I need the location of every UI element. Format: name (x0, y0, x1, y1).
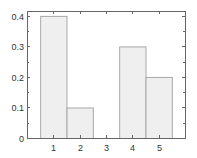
x-tick-label: 4 (130, 143, 135, 153)
bar-5 (146, 77, 172, 138)
bar-chart: 00.10.20.30.4 12345 (0, 0, 197, 158)
bar-series (41, 16, 173, 138)
bar-2 (67, 108, 93, 139)
x-tick-label: 1 (51, 143, 56, 153)
y-tick-label: 0.4 (11, 12, 24, 22)
x-tick-label: 2 (78, 143, 83, 153)
bar-4 (120, 47, 146, 139)
y-tick-label: 0.1 (11, 103, 24, 113)
bar-1 (41, 16, 67, 138)
x-tick-label: 3 (104, 143, 109, 153)
y-tick-label: 0.3 (11, 42, 24, 52)
x-tick-label: 5 (157, 143, 162, 153)
y-tick-label: 0 (19, 134, 24, 144)
y-tick-label: 0.2 (11, 73, 24, 83)
